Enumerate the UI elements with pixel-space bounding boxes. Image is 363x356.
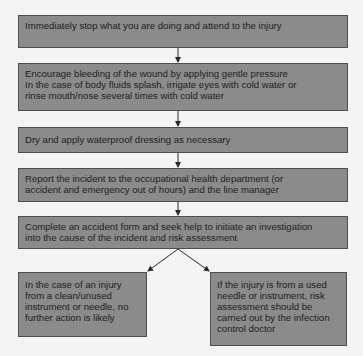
flow-step-dry-and-dress: Dry and apply waterproof dressing as nec… [18, 127, 348, 153]
flow-step-report-incident: Report the incident to the occupational … [18, 168, 348, 202]
flow-branch-clean-instrument: In the case of an injury from a clean/un… [18, 272, 147, 337]
arrow-step5-to-branch-used [178, 249, 209, 271]
flow-branch-used-instrument: If the injury is from a used needle or i… [210, 272, 347, 346]
flow-step-encourage-bleeding: Encourage bleeding of the wound by apply… [18, 63, 348, 111]
flow-step-stop-and-attend: Immediately stop what you are doing and … [18, 15, 348, 48]
arrow-step5-to-branch-clean [148, 249, 178, 271]
flow-step-accident-form: Complete an accident form and seek help … [18, 216, 348, 249]
